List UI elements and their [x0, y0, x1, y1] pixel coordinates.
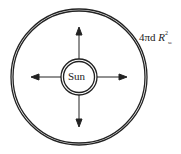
arrow-left-icon — [31, 74, 61, 80]
sphere-diagram — [0, 0, 181, 154]
area-subscript: se — [168, 40, 172, 45]
area-superscript: 2 — [165, 30, 168, 36]
area-prefix: 4πd — [139, 31, 158, 43]
sun-label: Sun — [68, 70, 85, 82]
sphere-area-label: 4πd R2se — [139, 31, 172, 45]
arrow-right-icon — [97, 74, 127, 80]
arrow-down-icon — [76, 95, 82, 127]
arrow-up-icon — [76, 27, 82, 59]
